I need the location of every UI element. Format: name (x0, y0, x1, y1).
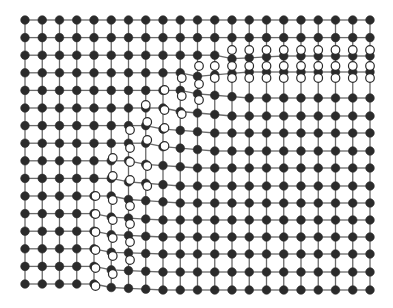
atom-filled (245, 112, 254, 121)
atom-filled (38, 139, 47, 148)
atom-filled (314, 33, 323, 42)
atom-filled (107, 86, 116, 95)
atom-filled (72, 16, 81, 25)
atom-filled (366, 250, 375, 259)
atom-filled (366, 182, 375, 191)
atom-open (160, 124, 169, 133)
atom-filled (176, 216, 185, 225)
atom-filled (210, 91, 219, 100)
atom-filled (262, 216, 271, 225)
atom-filled (193, 145, 202, 154)
atom-open (160, 142, 169, 151)
atom-filled (314, 16, 323, 25)
atom-filled (124, 104, 133, 113)
atom-filled (348, 216, 357, 225)
atom-filled (159, 286, 168, 295)
atom-filled (279, 250, 288, 259)
atom-filled (55, 51, 64, 60)
atom-filled (331, 268, 340, 277)
atom-filled (159, 16, 168, 25)
atom-filled (107, 51, 116, 60)
atom-filled (210, 216, 219, 225)
atom-filled (176, 268, 185, 277)
atom-filled (348, 112, 357, 121)
atom-open (108, 270, 117, 279)
atom-filled (141, 69, 150, 78)
atom-open (210, 74, 219, 83)
atom-filled (366, 199, 375, 208)
atom-filled (55, 69, 64, 78)
atom-filled (38, 86, 47, 95)
atom-filled (245, 33, 254, 42)
atom-filled (366, 268, 375, 277)
atom-open (143, 162, 152, 171)
atom-filled (210, 147, 219, 156)
atom-filled (38, 51, 47, 60)
atom-filled (193, 72, 202, 81)
atom-filled (366, 233, 375, 242)
atom-filled (38, 209, 47, 218)
atom-filled (141, 51, 150, 60)
atom-filled (245, 182, 254, 191)
atom-filled (90, 69, 99, 78)
atom-filled (90, 139, 99, 148)
atom-filled (210, 164, 219, 173)
lattice-diagram (0, 0, 393, 308)
atom-filled (38, 121, 47, 130)
atom-filled (210, 233, 219, 242)
atom-filled (124, 69, 133, 78)
atom-filled (21, 51, 30, 60)
atom-filled (262, 164, 271, 173)
atom-open (126, 256, 135, 265)
atom-open (245, 74, 254, 83)
lattice-canvas (0, 0, 393, 308)
atom-filled (331, 199, 340, 208)
atom-filled (348, 182, 357, 191)
atom-filled (245, 94, 254, 103)
atom-open (91, 192, 100, 201)
atom-filled (314, 268, 323, 277)
atom-filled (279, 164, 288, 173)
atom-filled (297, 94, 306, 103)
atom-open (366, 62, 375, 71)
atom-open (228, 46, 237, 55)
atom-open (297, 74, 306, 83)
atom-filled (262, 182, 271, 191)
atom-filled (193, 33, 202, 42)
atom-filled (279, 268, 288, 277)
atom-filled (348, 164, 357, 173)
atom-filled (21, 121, 30, 130)
atom-filled (90, 121, 99, 130)
atom-filled (314, 216, 323, 225)
atom-filled (124, 284, 133, 293)
atom-open (348, 74, 357, 83)
atom-filled (55, 139, 64, 148)
atom-filled (159, 69, 168, 78)
atom-filled (348, 94, 357, 103)
atom-open (228, 62, 237, 71)
atom-filled (193, 16, 202, 25)
atom-open (91, 264, 100, 273)
atom-filled (55, 174, 64, 183)
atom-filled (279, 129, 288, 138)
atom-filled (72, 86, 81, 95)
atom-open (143, 136, 152, 145)
atom-filled (141, 285, 150, 294)
atom-filled (72, 139, 81, 148)
atom-open (126, 144, 135, 153)
atom-filled (124, 266, 133, 275)
atom-filled (331, 147, 340, 156)
atom-filled (176, 162, 185, 171)
atom-filled (176, 286, 185, 295)
atom-filled (124, 51, 133, 60)
atom-filled (262, 268, 271, 277)
atom-open (297, 46, 306, 55)
atom-filled (210, 182, 219, 191)
atom-filled (228, 286, 237, 295)
atom-open (245, 46, 254, 55)
atom-filled (72, 33, 81, 42)
atom-filled (193, 286, 202, 295)
atom-filled (297, 129, 306, 138)
atom-filled (228, 233, 237, 242)
atom-filled (176, 199, 185, 208)
